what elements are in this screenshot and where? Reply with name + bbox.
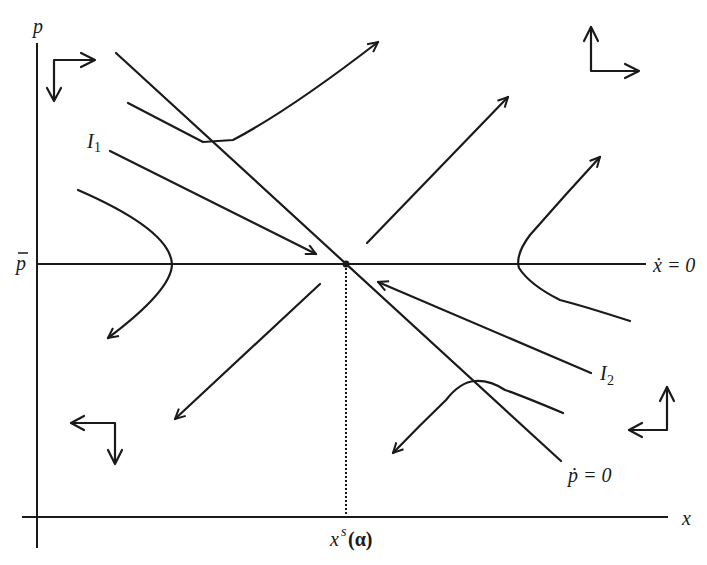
direction-indicator-bottom-right: [629, 387, 674, 437]
p-bar-label: p: [14, 252, 28, 275]
direction-indicator-bottom-left: [71, 416, 122, 464]
svg-text:2: 2: [607, 373, 614, 388]
x-dot-zero-label: ẋ = 0: [652, 254, 695, 276]
y-axis-label: p: [31, 15, 43, 38]
p-dot-zero-locus: [116, 53, 561, 461]
unstable-arrow-upper-right: [367, 97, 508, 243]
I1-label: I 1: [86, 130, 101, 155]
p-dot-zero-label: ṗ = 0: [566, 464, 612, 487]
equilibrium-x-label: x s (α): [329, 524, 372, 551]
svg-text:(α): (α): [348, 528, 372, 551]
svg-text:s: s: [341, 524, 347, 539]
stable-arm-I1: [110, 151, 316, 254]
trajectory-right: [518, 157, 630, 321]
stable-arm-I2: [378, 282, 591, 373]
unstable-arrow-lower-left: [175, 284, 320, 419]
direction-indicator-top-left: [47, 53, 95, 101]
direction-indicator-top-right: [584, 27, 639, 78]
equilibrium-point: [343, 261, 350, 268]
svg-text:1: 1: [94, 140, 101, 155]
trajectory-bottom: [393, 381, 563, 453]
x-axis-label: x: [681, 507, 691, 529]
svg-text:p: p: [14, 252, 26, 275]
phase-diagram: p x p ẋ = 0 ṗ = 0 I 1 I 2 x s (α): [0, 0, 707, 565]
svg-text:x: x: [329, 528, 339, 550]
I2-label: I 2: [599, 362, 614, 388]
trajectory-top: [128, 42, 378, 142]
